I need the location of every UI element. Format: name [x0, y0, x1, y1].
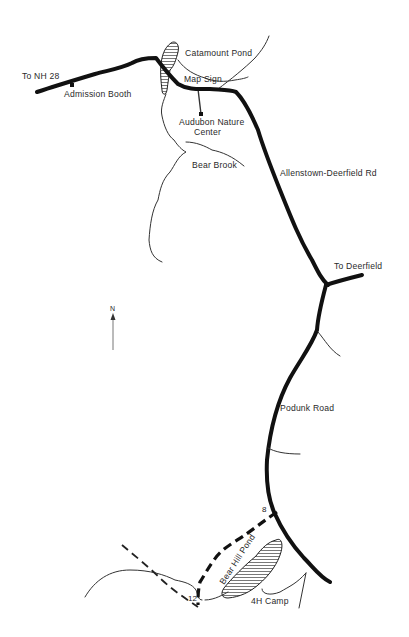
stream-podunk-west [268, 448, 300, 454]
label-admission-booth: Admission Booth [64, 89, 132, 99]
trail-thin [122, 545, 198, 607]
road-to-deerfield [326, 275, 362, 285]
label-4h-camp: 4H Camp [251, 596, 289, 606]
stream-4h-camp [262, 573, 306, 594]
label-to-deerfield: To Deerfield [334, 261, 382, 271]
audubon-marker [199, 112, 203, 116]
trail-marker-12: 12 [188, 594, 197, 603]
label-audubon-line2: Center [194, 127, 221, 137]
label-audubon-line1: Audubon Nature [179, 117, 244, 127]
trail-marker-8: 8 [262, 505, 267, 514]
label-podunk-road: Podunk Road [280, 403, 334, 413]
label-map-sign: Map Sign [184, 74, 222, 84]
road-podunk [267, 285, 330, 582]
stream-west [85, 570, 202, 600]
trail-map: N To NH 28 Admission Booth Catamount Pon… [0, 0, 409, 637]
admission-booth-marker [70, 83, 74, 87]
label-bear-brook: Bear Brook [192, 160, 237, 170]
label-to-nh28: To NH 28 [22, 71, 59, 81]
north-label: N [110, 305, 115, 312]
stream-podunk-east [318, 332, 340, 356]
label-catamount-pond: Catamount Pond [185, 48, 252, 58]
audubon-spur [198, 89, 201, 114]
north-arrow: N [110, 305, 116, 350]
label-allenstown-deerfield-rd: Allenstown-Deerfield Rd [280, 168, 377, 178]
